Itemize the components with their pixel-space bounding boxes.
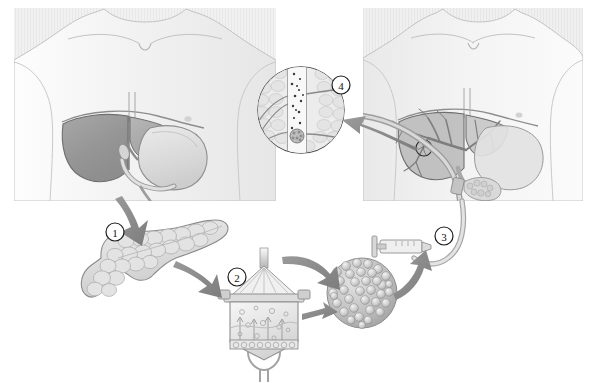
chamber-inlet-stem [260, 248, 268, 268]
excised-pancreas [81, 220, 228, 297]
donor-right-nipple [184, 116, 191, 122]
chamber-flange [224, 294, 304, 302]
donor-stomach [138, 126, 207, 190]
islet-transplant-figure: 1 2 3 4 [0, 0, 589, 383]
recipient-right-nipple [516, 112, 523, 117]
recipient-torso-panel [363, 8, 583, 201]
callout-2-number: 2 [234, 272, 240, 284]
syringe-plunger-flange [372, 236, 377, 257]
callout-1[interactable]: 1 [106, 223, 124, 241]
donor-torso-panel [14, 8, 276, 212]
syringe-plunger-rod [377, 244, 386, 249]
arrow-chamber-to-islets [282, 256, 340, 290]
chamber-right-bolt [298, 290, 310, 299]
callout-3-number: 3 [441, 231, 447, 243]
chamber-mesh-screen [230, 340, 298, 349]
callout-1-number: 1 [112, 227, 118, 239]
callout-4-number: 4 [338, 80, 344, 92]
chamber-outlet-tubes [260, 370, 268, 382]
callout-2[interactable]: 2 [228, 268, 246, 286]
inset-engrafted-islet [290, 129, 304, 143]
callout-4[interactable]: 4 [332, 76, 350, 94]
callout-3[interactable]: 3 [435, 227, 453, 245]
ricordi-isolation-chamber [218, 248, 310, 382]
arrow-pancreas-to-chamber [173, 261, 222, 298]
syringe-luer-tip [422, 242, 431, 252]
illustration-canvas: 1 2 3 4 [0, 0, 589, 383]
